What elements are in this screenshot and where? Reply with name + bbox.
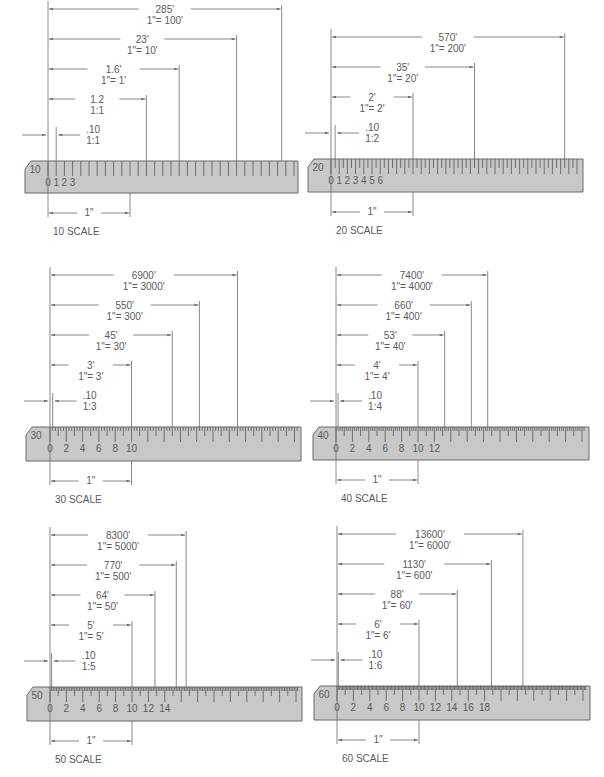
- dimension-reading: 1.6'1"= 1': [49, 64, 179, 161]
- reading-value: 770': [104, 560, 123, 571]
- reading-value: 550': [115, 300, 134, 311]
- ruler-number: 2: [345, 175, 351, 186]
- reading-value: 88': [391, 589, 404, 600]
- reading-ratio: 1:1: [90, 105, 104, 116]
- ruler-number: 1: [53, 177, 59, 188]
- dimension-reading: 23'1"= 10': [49, 34, 237, 161]
- reading-ratio: 1"= 4': [364, 371, 389, 382]
- ruler-number: 6: [383, 702, 389, 713]
- reading-value: 3': [87, 360, 95, 371]
- ruler-number: 10: [413, 702, 425, 713]
- reading-ratio: 1"= 3': [78, 371, 103, 382]
- reading-value: 6': [374, 619, 382, 630]
- reading-value: 4': [373, 360, 381, 371]
- reading-ratio: 1"= 50': [87, 601, 118, 612]
- ruler-number: 3: [70, 177, 76, 188]
- reading-value: 7400': [400, 270, 424, 281]
- inch-label: 1": [367, 206, 377, 217]
- reading-value: 23': [136, 34, 149, 45]
- ruler-number: 4: [367, 702, 373, 713]
- ruler-number: 10: [126, 703, 138, 714]
- reading-value: 64': [96, 590, 109, 601]
- dimension-reading: .101:6: [311, 649, 383, 686]
- reading-value: 1.6': [106, 64, 122, 75]
- ruler-number: 16: [463, 702, 475, 713]
- ruler-number: 4: [80, 443, 86, 454]
- panel-scale-60: 0246810121416186013600'1"= 6000'1130'1"=…: [311, 526, 590, 764]
- inch-label: 1": [86, 475, 96, 486]
- ruler-number: 2: [64, 703, 70, 714]
- ruler-number: 3: [353, 175, 359, 186]
- ruler-scale-mark: 20: [312, 162, 324, 173]
- ruler-scale-mark: 10: [29, 164, 41, 175]
- ruler-number: 2: [64, 443, 70, 454]
- ruler-number: 4: [361, 175, 367, 186]
- reading-ratio: 1"= 5': [78, 631, 103, 642]
- ruler-number: 2: [351, 702, 357, 713]
- ruler-number: 18: [479, 702, 491, 713]
- reading-value: 570': [439, 32, 458, 43]
- scale-caption: 10 SCALE: [53, 226, 100, 237]
- ruler-scale-mark: 40: [317, 430, 329, 441]
- dimension-reading: 45'1"= 30': [51, 330, 172, 427]
- scale-caption: 20 SCALE: [336, 225, 383, 236]
- dimension-reading: 6900'1"= 3000': [51, 270, 237, 427]
- reading-ratio: 1"= 20': [387, 73, 418, 84]
- reading-value: 2': [368, 92, 376, 103]
- scale-caption: 60 SCALE: [342, 753, 389, 764]
- reading-ratio: 1:4: [368, 401, 382, 412]
- reading-ratio: 1"= 300': [107, 311, 143, 322]
- reading-value: .10: [83, 390, 97, 401]
- reading-ratio: 1"= 2': [359, 103, 384, 114]
- reading-value: .10: [82, 650, 96, 661]
- ruler-number: 12: [143, 703, 155, 714]
- reading-value: .10: [368, 390, 382, 401]
- scale-caption: 30 SCALE: [55, 494, 102, 505]
- reading-value: .10: [368, 649, 382, 660]
- inch-label: 1": [84, 207, 94, 218]
- panel-scale-30: 0246810306900'1"= 3000'550'1"= 300'45'1"…: [24, 267, 301, 505]
- reading-ratio: 1"= 3000': [123, 281, 165, 292]
- reading-value: 285': [156, 4, 175, 15]
- reading-ratio: 1"= 5000': [97, 541, 139, 552]
- ruler-number: 8: [399, 443, 405, 454]
- panel-scale-20: 012345620570'1"= 200'35'1"= 20'2'1"= 2'.…: [305, 29, 583, 236]
- ruler-number: 2: [62, 177, 68, 188]
- panel-scale-10: 012310285'1"= 100'23'1"= 10'1.6'1"= 1'1.…: [22, 1, 298, 237]
- ruler-number: 8: [400, 702, 406, 713]
- ruler-number: 6: [377, 175, 383, 186]
- reading-ratio: 1"= 30': [96, 341, 127, 352]
- scale-diagram: 012310285'1"= 100'23'1"= 10'1.6'1"= 1'1.…: [0, 0, 604, 777]
- reading-value: 35': [396, 62, 409, 73]
- ruler-number: 12: [430, 702, 442, 713]
- ruler-number: 6: [96, 443, 102, 454]
- ruler-number: 4: [80, 703, 86, 714]
- dimension-reading: 550'1"= 300': [51, 300, 199, 427]
- dimension-reading: .101:3: [24, 390, 97, 427]
- dimension-reading: 770'1"= 500': [51, 560, 176, 687]
- ruler-number: 1: [336, 175, 342, 186]
- reading-value: 6900': [132, 270, 156, 281]
- dimension-reading: .101:4: [310, 390, 382, 427]
- ruler-number: 4: [366, 443, 372, 454]
- reading-value: .10: [86, 124, 100, 135]
- panel-scale-40: 024681012407400'1"= 4000'660'1"= 400'53'…: [310, 267, 589, 504]
- ruler-number: 6: [382, 443, 388, 454]
- ruler-number: 10: [412, 443, 424, 454]
- reading-value: .10: [365, 122, 379, 133]
- reading-value: 5': [87, 620, 95, 631]
- dimension-reading: 8300'1"= 5000': [51, 530, 186, 687]
- ruler-number: 8: [112, 443, 118, 454]
- dimension-reading: 53'1"= 40': [337, 330, 445, 427]
- dimension-reading: 35'1"= 20': [332, 62, 475, 159]
- dimension-reading: 1130'1"= 600': [338, 559, 491, 686]
- ruler-scale-mark: 50: [31, 690, 43, 701]
- ruler-number: 6: [96, 703, 102, 714]
- reading-ratio: 1"= 10': [127, 45, 158, 56]
- reading-ratio: 1"= 1': [101, 75, 126, 86]
- reading-ratio: 1"= 100': [147, 15, 183, 26]
- inch-label: 1": [373, 734, 383, 745]
- dimension-reading: .101:2: [305, 122, 379, 159]
- scale-caption: 40 SCALE: [341, 493, 388, 504]
- reading-ratio: 1"= 6': [365, 630, 390, 641]
